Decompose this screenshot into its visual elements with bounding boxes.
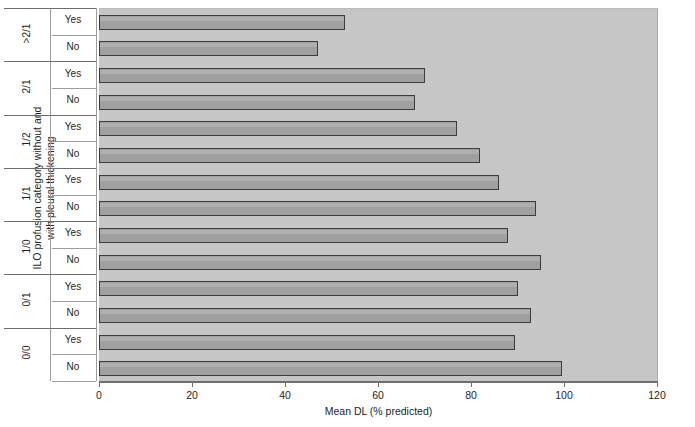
y-axis-tick-label: Yes <box>56 281 90 293</box>
bar <box>99 68 425 83</box>
chart-figure: ILO profusion category without and with … <box>0 0 695 427</box>
bar-highlight <box>100 203 535 207</box>
x-axis-tick-label: 0 <box>77 389 121 401</box>
bar <box>99 281 518 296</box>
x-axis-tick <box>471 381 472 387</box>
y-axis-tick-label: Yes <box>56 14 90 26</box>
x-axis-tick-label: 120 <box>635 389 679 401</box>
bar <box>99 335 515 350</box>
bar-highlight <box>100 257 540 261</box>
bar <box>99 41 318 56</box>
tick-separator <box>52 381 96 382</box>
y-axis-tick-label: Yes <box>56 334 90 346</box>
bar <box>99 255 541 270</box>
tick-separator <box>52 301 96 302</box>
y-axis-group-label: 1/2 <box>21 117 32 163</box>
y-axis-group-label: 2/1 <box>21 63 32 109</box>
bar <box>99 308 531 323</box>
y-axis-tick-label: No <box>56 94 90 106</box>
x-axis-tick <box>564 381 565 387</box>
bar-highlight <box>100 177 498 181</box>
bar-highlight <box>100 17 344 21</box>
tick-separator <box>52 88 96 89</box>
group-separator <box>4 274 96 275</box>
x-axis-tick <box>657 381 658 387</box>
x-axis-tick-label: 20 <box>170 389 214 401</box>
bar-highlight <box>100 230 507 234</box>
y-axis-tick-label: Yes <box>56 174 90 186</box>
bar-highlight <box>100 363 561 367</box>
x-axis-tick-label: 60 <box>356 389 400 401</box>
plot-area <box>99 8 658 382</box>
y-axis-tick-label: No <box>56 41 90 53</box>
group-separator <box>4 328 96 329</box>
x-axis-tick-label: 40 <box>263 389 307 401</box>
bar <box>99 175 499 190</box>
y-axis-group-label: 1/0 <box>21 223 32 269</box>
y-axis-tick-label: Yes <box>56 68 90 80</box>
bar <box>99 201 536 216</box>
y-axis-tick-label: No <box>56 148 90 160</box>
bar-highlight <box>100 70 424 74</box>
x-axis-tick-label: 100 <box>542 389 586 401</box>
x-axis-title: Mean DL (% predicted) <box>99 405 658 417</box>
y-axis-group-label: 0/1 <box>21 277 32 323</box>
bar <box>99 148 480 163</box>
gutter-divider <box>96 8 97 381</box>
y-axis-title: ILO profusion category without and with … <box>31 18 57 358</box>
y-axis-tick-label: Yes <box>56 227 90 239</box>
tick-separator <box>52 195 96 196</box>
x-axis-tick <box>192 381 193 387</box>
y-axis-group-label: >2/1 <box>21 10 32 56</box>
bar-highlight <box>100 97 414 101</box>
group-separator <box>4 61 96 62</box>
bar <box>99 95 415 110</box>
bar <box>99 15 345 30</box>
y-axis-tick-label: Yes <box>56 121 90 133</box>
y-axis-tick-label: No <box>56 254 90 266</box>
bar <box>99 361 562 376</box>
bar-highlight <box>100 337 514 341</box>
y-axis-group-label: 1/1 <box>21 170 32 216</box>
tick-separator <box>52 35 96 36</box>
bar-highlight <box>100 43 317 47</box>
y-axis-tick-label: No <box>56 361 90 373</box>
group-separator <box>4 115 96 116</box>
group-separator <box>4 168 96 169</box>
tick-separator <box>52 354 96 355</box>
group-separator <box>4 8 96 9</box>
bar-highlight <box>100 123 456 127</box>
x-axis-tick-label: 80 <box>449 389 493 401</box>
group-separator <box>4 221 96 222</box>
x-axis-tick <box>285 381 286 387</box>
y-axis-group-label: 0/0 <box>21 330 32 376</box>
tick-separator <box>52 141 96 142</box>
bar-highlight <box>100 150 479 154</box>
bar-highlight <box>100 310 530 314</box>
bar-highlight <box>100 283 517 287</box>
y-axis-tick-label: No <box>56 201 90 213</box>
bar <box>99 228 508 243</box>
y-axis-tick-label: No <box>56 307 90 319</box>
x-axis-tick <box>99 381 100 387</box>
bar <box>99 121 457 136</box>
tick-separator <box>52 248 96 249</box>
gutter-divider <box>50 8 51 381</box>
x-axis-tick <box>378 381 379 387</box>
